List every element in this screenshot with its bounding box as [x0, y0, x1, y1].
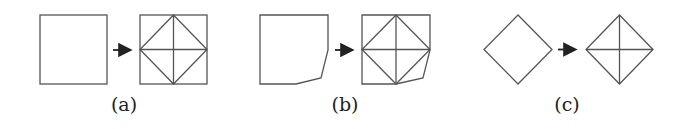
panel-b-output-subdivided-clipped-square: [362, 15, 430, 84]
panel-c-label: (c): [537, 93, 597, 115]
panel-b: [260, 15, 430, 84]
panel-a: [40, 15, 207, 84]
panel-a-input-square: [40, 15, 107, 84]
panel-c-output-subdivided-diamond: [586, 15, 653, 84]
panel-a-output-subdivided-square: [140, 15, 207, 84]
panel-b-input-clipped-square: [260, 15, 328, 84]
panel-a-label: (a): [94, 93, 154, 115]
panel-b-label: (b): [315, 93, 375, 115]
panel-c: [484, 15, 653, 84]
panel-c-input-diamond: [484, 15, 552, 84]
figure-canvas: (a) (b) (c): [0, 0, 684, 129]
